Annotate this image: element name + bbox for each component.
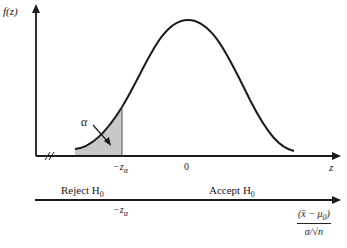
- reject-region-label: Reject H0: [61, 185, 104, 199]
- zero-label: 0: [184, 162, 189, 172]
- test-statistic-numerator: (x̄ − μ0): [297, 208, 331, 224]
- lower-critical-label: −zα: [113, 205, 128, 218]
- normal-curve-diagram: [0, 0, 347, 248]
- alpha-label: α: [81, 116, 87, 128]
- decision-axis-arrow-icon: [332, 196, 341, 204]
- test-statistic-fraction: (x̄ − μ0) σ/√n: [297, 208, 331, 237]
- critical-value-label: −zα: [113, 162, 128, 175]
- y-axis-label: f(z): [3, 6, 18, 17]
- x-axis-label: z: [329, 162, 333, 173]
- accept-region-label: Accept H0: [209, 185, 255, 199]
- x-axis-arrow-icon: [332, 152, 341, 160]
- y-axis-arrow-icon: [32, 4, 40, 13]
- test-statistic-denominator: σ/√n: [297, 224, 331, 237]
